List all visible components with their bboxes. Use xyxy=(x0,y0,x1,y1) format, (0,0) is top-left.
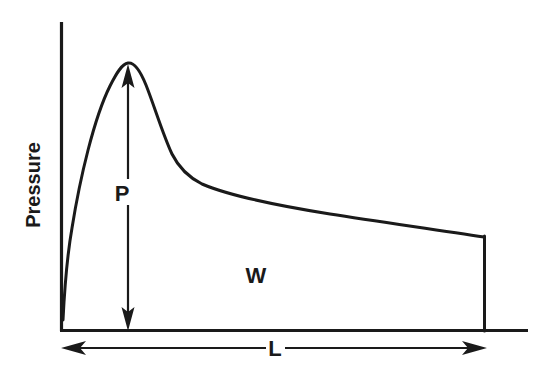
y-axis-label: Pressure xyxy=(22,142,44,228)
length-label: L xyxy=(268,336,281,361)
peak-pressure-label: P xyxy=(115,181,130,206)
figure-canvas: Pressure P W L xyxy=(0,0,555,375)
pressure-length-figure: Pressure P W L xyxy=(0,0,555,375)
work-area-label: W xyxy=(246,263,267,288)
